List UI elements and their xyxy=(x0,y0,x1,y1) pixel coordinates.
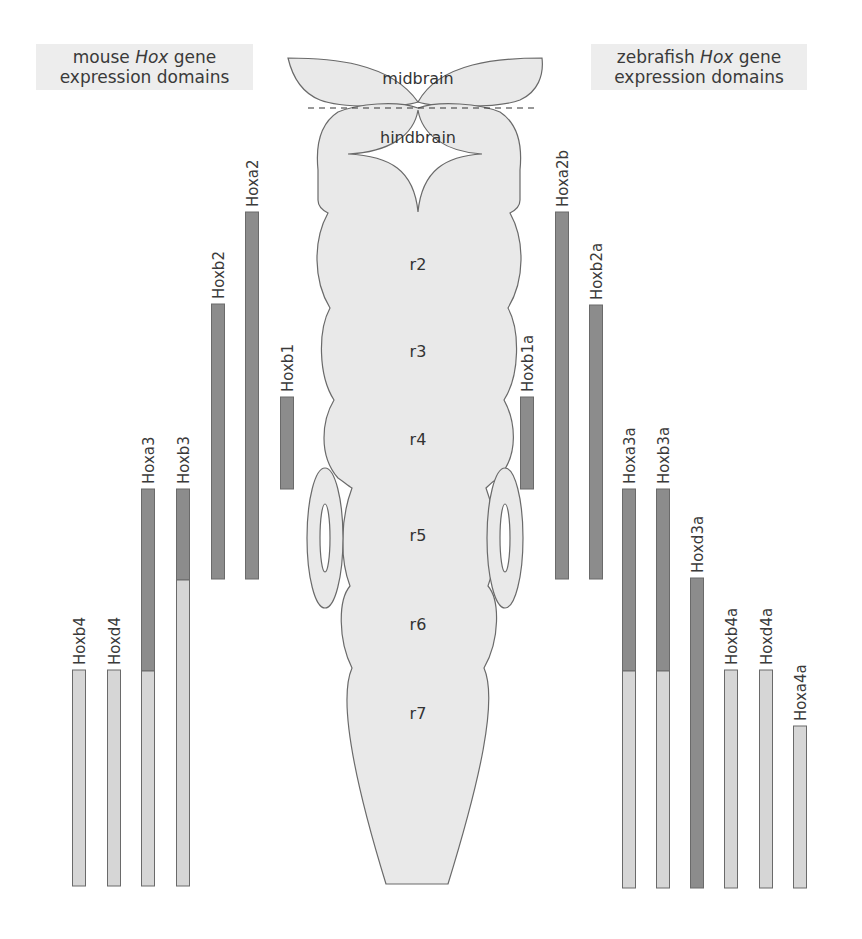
left-otic-vesicle xyxy=(307,468,343,608)
weak-expression-segment xyxy=(794,726,807,888)
gene-label: Hoxd4a xyxy=(758,608,776,665)
rhombomere-r2-label: r2 xyxy=(410,255,427,274)
strong-expression-segment xyxy=(142,489,155,671)
gene-label: Hoxb2 xyxy=(210,251,228,299)
rhombomere-r7-label: r7 xyxy=(410,704,427,723)
gene-label: Hoxb3a xyxy=(655,427,673,484)
strong-expression-segment xyxy=(521,397,534,489)
hindbrain-diagram: midbrain hindbrain r2 r3 r4 r5 r6 r7 Hox… xyxy=(0,0,862,939)
strong-expression-segment xyxy=(691,578,704,888)
rhombomere-r4-label: r4 xyxy=(410,430,427,449)
strong-expression-segment xyxy=(177,489,190,580)
rhombomere-r6-label: r6 xyxy=(410,615,427,634)
strong-expression-segment xyxy=(556,212,569,579)
strong-expression-segment xyxy=(212,304,225,579)
gene-label: Hoxd4 xyxy=(106,617,124,665)
gene-label: Hoxb1 xyxy=(279,344,297,392)
weak-expression-segment xyxy=(725,670,738,888)
zebrafish-bar-hoxb4a: Hoxb4a xyxy=(723,608,741,888)
strong-expression-segment xyxy=(281,397,294,489)
weak-expression-segment xyxy=(760,670,773,888)
weak-expression-segment xyxy=(108,670,121,886)
zebrafish-gene-bars: Hoxb1aHoxa2bHoxb2aHoxa3aHoxb3aHoxd3aHoxb… xyxy=(519,150,810,888)
zebrafish-bar-hoxb1a: Hoxb1a xyxy=(519,335,537,489)
zebrafish-bar-hoxd3a: Hoxd3a xyxy=(689,516,707,888)
mouse-bar-hoxb4: Hoxb4 xyxy=(71,617,89,886)
gene-label: Hoxa3 xyxy=(140,436,158,484)
strong-expression-segment xyxy=(657,489,670,671)
weak-expression-segment xyxy=(177,580,190,886)
zebrafish-bar-hoxa3a: Hoxa3a xyxy=(621,427,639,888)
gene-label: Hoxb1a xyxy=(519,335,537,392)
rhombomere-r3-label: r3 xyxy=(410,342,427,361)
right-otic-vesicle xyxy=(487,468,523,608)
mouse-bar-hoxb1: Hoxb1 xyxy=(279,344,297,489)
strong-expression-segment xyxy=(623,489,636,671)
mouse-bar-hoxb2: Hoxb2 xyxy=(210,251,228,579)
zebrafish-bar-hoxa4a: Hoxa4a xyxy=(792,664,810,888)
weak-expression-segment xyxy=(623,671,636,888)
hindbrain-shape xyxy=(317,104,521,884)
weak-expression-segment xyxy=(73,670,86,886)
gene-label: Hoxd3a xyxy=(689,516,707,573)
mouse-gene-bars: Hoxb4Hoxd4Hoxa3Hoxb3Hoxb2Hoxa2Hoxb1 xyxy=(71,159,297,886)
gene-label: Hoxb3 xyxy=(175,436,193,484)
mouse-bar-hoxb3: Hoxb3 xyxy=(175,436,193,886)
gene-label: Hoxa2 xyxy=(244,159,262,207)
strong-expression-segment xyxy=(246,212,259,579)
gene-label: Hoxb2a xyxy=(588,243,606,300)
zebrafish-bar-hoxd4a: Hoxd4a xyxy=(758,608,776,888)
zebrafish-bar-hoxb2a: Hoxb2a xyxy=(588,243,606,579)
hindbrain-label: hindbrain xyxy=(380,128,456,147)
zebrafish-bar-hoxa2b: Hoxa2b xyxy=(554,150,572,579)
weak-expression-segment xyxy=(657,671,670,888)
gene-label: Hoxa4a xyxy=(792,664,810,721)
gene-label: Hoxb4a xyxy=(723,608,741,665)
mouse-bar-hoxd4: Hoxd4 xyxy=(106,617,124,886)
weak-expression-segment xyxy=(142,671,155,886)
zebrafish-bar-hoxb3a: Hoxb3a xyxy=(655,427,673,888)
midbrain-label: midbrain xyxy=(382,69,453,88)
rhombomere-r5-label: r5 xyxy=(410,526,427,545)
gene-label: Hoxa2b xyxy=(554,150,572,207)
gene-label: Hoxb4 xyxy=(71,617,89,665)
mouse-bar-hoxa2: Hoxa2 xyxy=(244,159,262,579)
strong-expression-segment xyxy=(590,305,603,579)
mouse-bar-hoxa3: Hoxa3 xyxy=(140,436,158,886)
gene-label: Hoxa3a xyxy=(621,427,639,484)
